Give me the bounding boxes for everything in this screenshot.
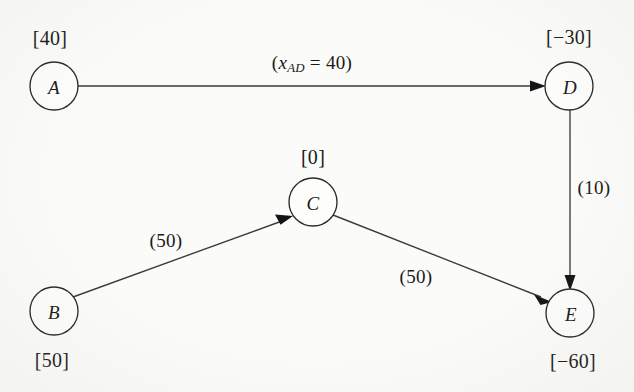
edge-label-a-to-d: (xAD = 40) [272, 53, 352, 76]
edge-label-a-to-d-paren-open: ( [272, 52, 279, 73]
node-value-a: [40] [33, 28, 68, 48]
node-value-c: [0] [301, 147, 325, 167]
node-label-a: A [48, 78, 60, 97]
arrowhead-a-to-d [530, 81, 546, 92]
edge-label-c-to-e: (50) [400, 267, 433, 286]
edge-label-b-to-c: (50) [150, 231, 183, 250]
edge-d-to-e [565, 110, 576, 291]
node-value-d: [−30] [546, 27, 592, 47]
node-label-d: D [563, 78, 577, 97]
edge-label-a-to-d-value: 40 [326, 52, 346, 73]
node-value-b: [50] [35, 350, 70, 370]
edge-label-a-to-d-paren-close: ) [346, 52, 353, 73]
edge-b-to-c [73, 215, 293, 298]
node-value-e: [−60] [550, 351, 596, 371]
edge-label-a-to-d-equals: = [305, 52, 326, 73]
edge-a-to-d [78, 81, 546, 92]
edge-label-a-to-d-subscript: AD [287, 60, 305, 75]
edge-c-to-e [333, 215, 552, 305]
node-label-e: E [565, 305, 577, 324]
node-label-c: C [307, 194, 320, 213]
edge-label-d-to-e: (10) [578, 178, 611, 197]
node-label-b: B [48, 303, 60, 322]
network-flow-diagram: A B C D E [40] [50] [0] [−30] [−60] (xAD… [0, 0, 634, 392]
